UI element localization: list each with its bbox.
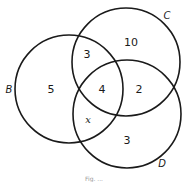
set-label-b: B bbox=[6, 84, 13, 95]
region-d-only: 3 bbox=[124, 134, 131, 147]
region-c-only: 10 bbox=[124, 36, 138, 49]
region-b-c: 3 bbox=[84, 48, 91, 61]
region-c-d: 2 bbox=[136, 83, 143, 96]
region-b-only: 5 bbox=[48, 83, 55, 96]
set-label-c: C bbox=[164, 10, 171, 21]
region-b-d: x bbox=[85, 114, 91, 125]
circle-b bbox=[15, 35, 123, 143]
venn-diagram: B C D 5 10 3 3 2 x 4 Fig. ... bbox=[0, 0, 183, 182]
circle-c bbox=[72, 8, 180, 116]
set-label-d: D bbox=[158, 158, 166, 169]
region-b-c-d: 4 bbox=[99, 83, 106, 96]
figure-caption: Fig. ... bbox=[85, 175, 103, 182]
